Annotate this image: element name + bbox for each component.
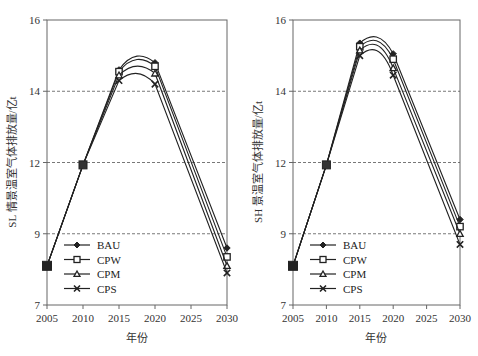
x-tick-label: 2020 (382, 312, 405, 324)
square-filled-marker-icon (322, 161, 330, 169)
triangle-marker-icon (74, 271, 80, 276)
x-tick-label: 2025 (416, 312, 439, 324)
x-tick-label: 2025 (180, 312, 203, 324)
legend-label: CPW (97, 254, 121, 266)
y-tick-label: 16 (275, 14, 287, 26)
diamond-marker-icon (74, 242, 80, 248)
series-line-bau (47, 56, 227, 266)
x-axis-label: 年份 (126, 331, 148, 344)
series-line-bau (293, 37, 460, 266)
legend-item-cps: CPS (310, 283, 363, 295)
y-axis-label: SH 景温室气体排放量/亿t (251, 101, 264, 223)
legend-item-cps: CPS (64, 283, 117, 295)
x-marker-icon (152, 81, 158, 87)
square-filled-marker-icon (289, 261, 298, 270)
x-tick-label: 2015 (108, 312, 131, 324)
y-tick-label: 12 (29, 157, 40, 169)
x-tick-label: 2010 (72, 312, 95, 324)
diamond-marker-icon (320, 242, 326, 248)
square-marker-icon (152, 63, 158, 69)
legend-item-cpm: CPM (64, 268, 120, 280)
y-tick-label: 7 (35, 299, 41, 311)
x-tick-label: 2010 (315, 312, 338, 324)
x-tick-label: 2030 (216, 312, 239, 324)
legend-label: BAU (343, 239, 366, 251)
legend-item-cpw: CPW (310, 254, 367, 266)
square-marker-icon (390, 56, 396, 62)
y-axis-label: SL 情景温室气体排放量/亿t (5, 96, 18, 227)
x-tick-label: 2030 (449, 312, 472, 324)
y-tick-label: 7 (281, 299, 287, 311)
y-tick-label: 9 (281, 228, 287, 240)
y-tick-label: 12 (275, 157, 286, 169)
chart-panel-2: 79121416200520102015202020252030年份SH 景温室… (251, 14, 472, 344)
series-line-cpm (293, 44, 460, 266)
legend-item-cpw: CPW (64, 254, 121, 266)
x-marker-icon (390, 72, 396, 78)
legend-label: CPS (343, 283, 363, 295)
legend-label: CPS (97, 283, 117, 295)
square-filled-marker-icon (43, 261, 52, 270)
x-tick-label: 2015 (349, 312, 372, 324)
legend-item-cpm: CPM (310, 268, 366, 280)
x-tick-label: 2020 (144, 312, 167, 324)
triangle-marker-icon (320, 271, 326, 276)
legend-label: CPM (343, 268, 366, 280)
square-marker-icon (74, 257, 80, 263)
legend-item-bau: BAU (64, 239, 120, 251)
y-tick-label: 9 (35, 228, 41, 240)
series-line-cpm (47, 66, 227, 266)
legend-label: CPW (343, 254, 367, 266)
chart-panel-1: 79121416200520102015202020252030年份SL 情景温… (5, 14, 239, 344)
legend: BAUCPWCPMCPS (64, 239, 121, 295)
x-tick-label: 2005 (282, 312, 305, 324)
x-tick-label: 2005 (36, 312, 59, 324)
y-tick-label: 16 (29, 14, 41, 26)
y-tick-label: 14 (275, 85, 287, 97)
chart-canvas: 79121416200520102015202020252030年份SL 情景温… (0, 0, 478, 356)
series-line-cps (47, 73, 227, 272)
square-filled-marker-icon (79, 161, 87, 169)
legend-label: BAU (97, 239, 120, 251)
square-marker-icon (320, 257, 326, 263)
y-tick-label: 14 (29, 85, 41, 97)
legend-label: CPM (97, 268, 120, 280)
legend-item-bau: BAU (310, 239, 366, 251)
x-axis-label: 年份 (365, 331, 387, 344)
legend: BAUCPWCPMCPS (310, 239, 367, 295)
series-line-cpw (293, 40, 460, 265)
triangle-marker-icon (457, 231, 463, 237)
